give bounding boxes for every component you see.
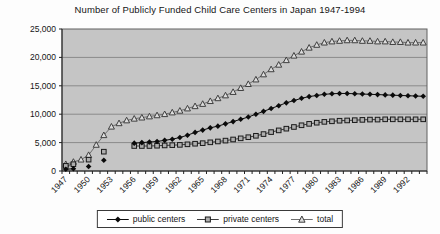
legend-label-total: total: [317, 214, 333, 224]
svg-text:1971: 1971: [231, 174, 252, 195]
public-centers-marker-icon: [107, 215, 129, 224]
x-axis-labels: 1947195019531956195919621965196819711974…: [49, 174, 412, 195]
chart-container: Number of Publicly Funded Child Care Cen…: [0, 0, 440, 234]
plot-area: [62, 29, 427, 171]
svg-text:5,000: 5,000: [35, 138, 57, 148]
svg-text:1974: 1974: [254, 174, 275, 195]
svg-text:1983: 1983: [323, 174, 344, 195]
svg-text:1977: 1977: [277, 174, 298, 195]
total-marker-icon: [291, 215, 313, 224]
chart-plot: 05,00010,00015,00020,00025,0001947195019…: [0, 0, 440, 206]
svg-text:1953: 1953: [94, 174, 115, 195]
legend-item-private-centers: private centers: [197, 214, 279, 224]
chart-legend: public centers private centers total: [97, 210, 343, 228]
svg-text:1980: 1980: [300, 174, 321, 195]
legend-item-public-centers: public centers: [107, 214, 185, 224]
svg-text:1992: 1992: [391, 174, 412, 195]
legend-label-public-centers: public centers: [133, 214, 185, 224]
svg-text:20,000: 20,000: [30, 52, 56, 62]
svg-text:1965: 1965: [186, 174, 207, 195]
svg-text:1986: 1986: [345, 174, 366, 195]
svg-text:10,000: 10,000: [30, 109, 56, 119]
private-centers-marker-icon: [197, 215, 219, 224]
svg-text:1962: 1962: [163, 174, 184, 195]
svg-text:1989: 1989: [368, 174, 389, 195]
svg-text:15,000: 15,000: [30, 81, 56, 91]
legend-label-private-centers: private centers: [223, 214, 279, 224]
svg-text:1956: 1956: [117, 174, 138, 195]
svg-text:1947: 1947: [49, 174, 70, 195]
svg-text:1968: 1968: [208, 174, 229, 195]
svg-text:0: 0: [51, 166, 56, 176]
y-axis-labels: 05,00010,00015,00020,00025,000: [30, 24, 62, 176]
svg-text:1950: 1950: [72, 174, 93, 195]
svg-text:25,000: 25,000: [30, 24, 56, 34]
svg-text:1959: 1959: [140, 174, 161, 195]
legend-item-total: total: [291, 214, 333, 224]
